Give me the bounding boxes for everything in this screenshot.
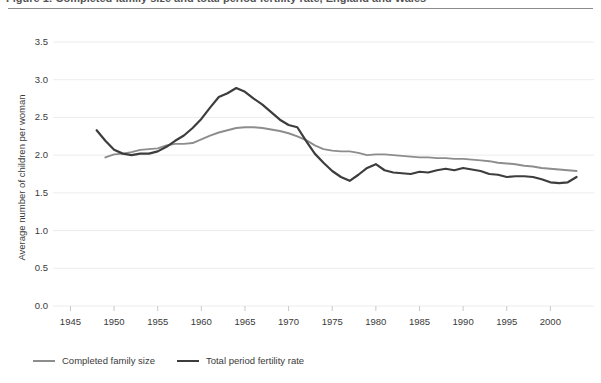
x-tick-label: 1960	[181, 316, 221, 327]
y-tick-label: 3.5	[24, 37, 48, 47]
series-line-total-period-fertility-rate	[97, 88, 577, 183]
legend-item-completed-family-size[interactable]: Completed family size	[33, 355, 155, 366]
x-tick-label: 1980	[356, 316, 396, 327]
legend-item-total-period-fertility-rate[interactable]: Total period fertility rate	[177, 355, 304, 366]
x-tick-label: 1955	[138, 316, 178, 327]
y-tick-label: 1.0	[24, 226, 48, 236]
x-tick-label: 1985	[399, 316, 439, 327]
legend-line-icon	[33, 360, 55, 362]
chart-plot-area: Average number of children per woman 0.0…	[0, 0, 601, 383]
x-tick-label: 1945	[50, 316, 90, 327]
y-tick-label: 2.0	[24, 150, 48, 160]
x-tick-label: 1995	[487, 316, 527, 327]
x-tick-label: 1975	[312, 316, 352, 327]
x-tick-label: 1965	[225, 316, 265, 327]
y-tick-label: 3.0	[24, 75, 48, 85]
x-tick-label: 1990	[443, 316, 483, 327]
y-tick-label: 0.0	[24, 301, 48, 311]
legend-label: Completed family size	[62, 355, 155, 366]
y-tick-label: 0.5	[24, 263, 48, 273]
y-tick-label: 2.5	[24, 112, 48, 122]
legend-line-icon	[177, 360, 199, 362]
y-axis-label: Average number of children per woman	[16, 63, 27, 293]
legend-label: Total period fertility rate	[206, 355, 304, 366]
series-line-completed-family-size	[105, 127, 576, 171]
y-tick-label: 1.5	[24, 188, 48, 198]
x-tick-label: 1950	[94, 316, 134, 327]
x-tick-label: 1970	[269, 316, 309, 327]
figure-container: Figure 1: Completed family size and tota…	[0, 0, 601, 383]
chart-legend: Completed family size Total period ferti…	[33, 355, 304, 366]
x-tick-label: 2000	[530, 316, 570, 327]
